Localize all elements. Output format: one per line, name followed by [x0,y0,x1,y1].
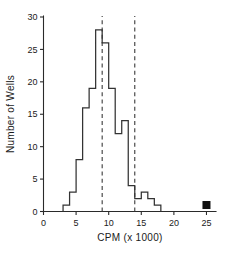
y-axis-title: Number of Wells [5,75,16,153]
x-tick-label: 25 [201,218,211,228]
y-tick-label: 0 [32,207,37,217]
y-tick-label: 20 [27,77,37,87]
x-tick-label: 10 [104,218,114,228]
x-axis-title: CPM (x 1000) [97,232,162,243]
y-tick-label: 10 [27,142,37,152]
x-tick-label: 5 [74,218,79,228]
chart-background [0,0,225,268]
histogram-figure: 051015202530 Number of Wells 0510152025 … [0,0,225,268]
y-tick-label: 30 [27,12,37,22]
outlier-marker [203,202,210,209]
y-tick-label: 15 [27,109,37,119]
x-tick-label: 20 [169,218,179,228]
x-tick-label: 15 [136,218,146,228]
point-marker-group [203,202,210,209]
y-tick-label: 25 [27,45,37,55]
y-tick-label: 5 [32,174,37,184]
x-tick-label: 0 [41,218,46,228]
chart-canvas: 051015202530 Number of Wells 0510152025 … [0,0,225,268]
